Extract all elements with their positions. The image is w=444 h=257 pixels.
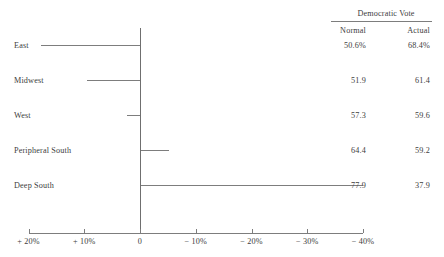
cell-normal-deep-south: 77.9 xyxy=(306,181,366,190)
x-axis-tick-label-0: + 20% xyxy=(17,237,40,246)
bar-midwest xyxy=(87,80,140,81)
category-label-deep-south: Deep South xyxy=(14,181,54,190)
x-axis-tick-0 xyxy=(29,229,30,233)
column-header-normal: Normal xyxy=(306,26,366,35)
cell-actual-midwest: 61.4 xyxy=(370,76,430,85)
x-axis-tick-6 xyxy=(363,229,364,233)
x-axis-tick-label-4: − 20% xyxy=(240,237,263,246)
x-axis-tick-label-2: 0 xyxy=(138,237,142,246)
cell-normal-peripheral-south: 64.4 xyxy=(306,146,366,155)
x-axis-tick-label-1: + 10% xyxy=(73,237,96,246)
x-axis-tick-1 xyxy=(84,229,85,233)
cell-actual-west: 59.6 xyxy=(370,111,430,120)
table-header-rule xyxy=(331,21,432,22)
table-header-title: Democratic Vote xyxy=(357,9,414,18)
category-label-peripheral-south: Peripheral South xyxy=(14,146,71,155)
x-axis-tick-label-3: − 10% xyxy=(184,237,207,246)
x-axis-line xyxy=(29,233,364,234)
cell-normal-east: 50.6% xyxy=(306,41,366,50)
x-axis-tick-label-6: − 40% xyxy=(352,237,375,246)
bar-chart: EastMidwestWestPeripheral SouthDeep Sout… xyxy=(0,0,444,257)
cell-actual-east: 68.4% xyxy=(370,41,430,50)
cell-actual-peripheral-south: 59.2 xyxy=(370,146,430,155)
cell-normal-midwest: 51.9 xyxy=(306,76,366,85)
x-axis-tick-5 xyxy=(307,229,308,233)
x-axis-tick-2 xyxy=(140,229,141,233)
x-axis-tick-label-5: − 30% xyxy=(296,237,319,246)
bar-west xyxy=(127,115,140,116)
x-axis-tick-3 xyxy=(196,229,197,233)
bar-peripheral-south xyxy=(140,150,169,151)
category-label-east: East xyxy=(14,41,29,50)
category-label-midwest: Midwest xyxy=(14,76,44,85)
x-axis-tick-4 xyxy=(252,229,253,233)
bar-east xyxy=(41,45,140,46)
zero-axis-line xyxy=(140,28,141,233)
category-label-west: West xyxy=(14,111,31,120)
cell-actual-deep-south: 37.9 xyxy=(370,181,430,190)
cell-normal-west: 57.3 xyxy=(306,111,366,120)
column-header-actual: Actual xyxy=(370,26,430,35)
